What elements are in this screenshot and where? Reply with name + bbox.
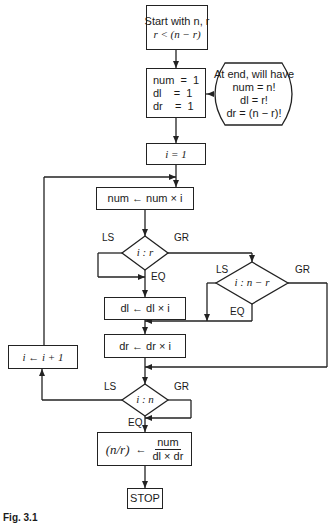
init-dr: dr = 1 (153, 100, 194, 113)
decision-i-n-text: i : n (122, 393, 168, 405)
decision-i-n-gr: GR (174, 381, 189, 392)
stop-box: STOP (127, 488, 163, 509)
start-line-1: Start with n, r (145, 15, 210, 28)
start-box: Start with n, r r < (n − r) (146, 5, 208, 50)
result-box: (n/r) ← num dl × dr (97, 432, 192, 466)
note-line-4: dr = (n − r)! (226, 107, 281, 120)
dr-step-text: dr ← dr × i (119, 340, 171, 353)
result-binomial: (n/r) (106, 443, 130, 456)
note-line-3: dl = r! (240, 94, 268, 107)
init-dl: dl = 1 (153, 87, 192, 100)
result-numerator: num (155, 436, 180, 450)
decision-i-r-gr: GR (174, 232, 189, 243)
stop-text: STOP (130, 492, 160, 505)
init-box: num = 1 dl = 1 dr = 1 (146, 68, 206, 118)
decision-i-n-ls: LS (104, 381, 116, 392)
decision-i-nr-text: i : n − r (216, 276, 288, 288)
start-line-2: r < (n − r) (153, 28, 200, 41)
decision-i-n-eq: EQ (128, 417, 142, 428)
dl-step-box: dl ← dl × i (104, 297, 186, 320)
figure-caption: Fig. 3.1 (3, 512, 37, 523)
dr-step-box: dr ← dr × i (104, 334, 186, 358)
dl-step-text: dl ← dl × i (120, 302, 169, 315)
set-i-text: i = 1 (165, 148, 186, 161)
decision-i-r-eq: EQ (151, 271, 165, 282)
increment-i-box: i ← i + 1 (8, 345, 78, 369)
note-line-1: At end, will have (214, 68, 294, 81)
note-line-2: num = n! (232, 81, 275, 94)
init-num: num = 1 (153, 74, 199, 87)
decision-i-nr-ls: LS (216, 264, 228, 275)
decision-i-nr-gr: GR (295, 264, 310, 275)
set-i-box: i = 1 (146, 143, 206, 165)
decision-i-nr-eq: EQ (230, 306, 244, 317)
num-step-text: num ← num × i (108, 192, 183, 205)
result-arrow: ← (135, 443, 146, 456)
decision-i-r-text: i : r (122, 246, 168, 258)
increment-i-text: i ← i + 1 (22, 351, 63, 364)
result-fraction: num dl × dr (152, 436, 183, 463)
num-step-box: num ← num × i (96, 187, 194, 210)
decision-i-r-ls: LS (102, 232, 114, 243)
end-state-note: At end, will have num = n! dl = r! dr = … (208, 64, 300, 124)
result-denominator: dl × dr (152, 450, 183, 463)
